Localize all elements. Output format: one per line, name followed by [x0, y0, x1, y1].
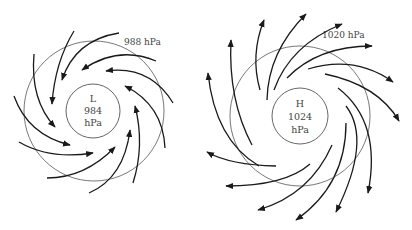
- arrow-outflow-14: [267, 14, 306, 100]
- arrow-inflow-11: [33, 54, 55, 127]
- arrow-outflow-11: [308, 64, 393, 82]
- arrow-outflow-10: [325, 74, 399, 121]
- arrow-inflow-7: [89, 130, 130, 193]
- high-pressure-system: 1020 hPa H 1024 hPa: [207, 14, 399, 220]
- arrow-outflow-5: [226, 164, 310, 186]
- pressure-systems-diagram: 988 hPa L 984 hPa 1020 hPa H 1024 hPa: [0, 0, 412, 230]
- low-pressure-unit: hPa: [84, 117, 102, 128]
- arrow-outflow-2: [231, 40, 252, 145]
- arrow-inflow-5: [125, 86, 165, 148]
- arrow-outflow-6: [258, 145, 332, 210]
- arrow-inflow-8: [47, 147, 115, 178]
- low-pressure-system: 988 hPa L 984 hPa: [14, 31, 173, 193]
- arrow-inflow-6: [133, 106, 140, 183]
- arrow-inflow-1: [52, 31, 74, 104]
- high-pressure-unit: hPa: [291, 124, 309, 135]
- arrow-outflow-1: [256, 20, 264, 90]
- arrow-inflow-10: [14, 96, 70, 145]
- isobar-label-988: 988 hPa: [124, 37, 161, 47]
- high-letter: H: [296, 98, 304, 109]
- low-letter: L: [90, 93, 97, 104]
- arrow-outflow-9: [338, 88, 371, 193]
- arrow-inflow-9: [19, 142, 93, 155]
- arrow-outflow-8: [336, 106, 357, 212]
- high-pressure-value: 1024: [288, 111, 312, 122]
- isobar-label-1020: 1020 hPa: [322, 30, 365, 40]
- low-pressure-value: 984: [84, 105, 102, 116]
